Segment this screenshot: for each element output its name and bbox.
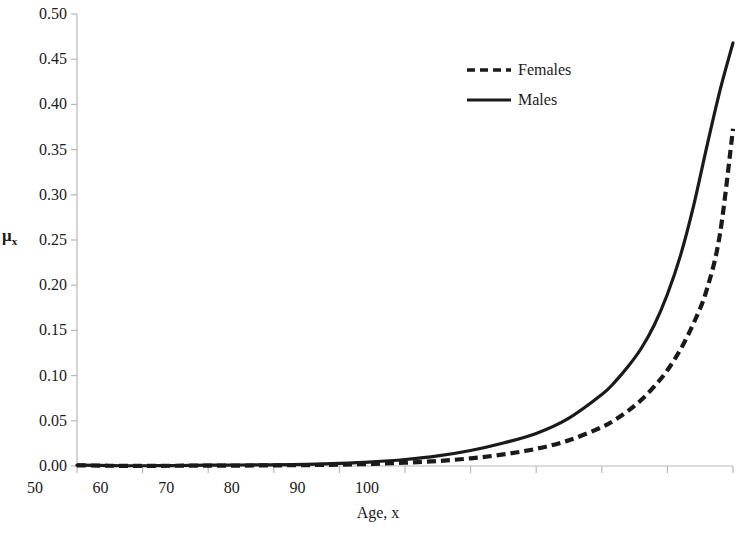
x-tick-label: 50	[27, 480, 43, 496]
x-tick-label: 60	[93, 480, 109, 496]
y-tick-label: 0.10	[39, 368, 67, 384]
y-tick-label: 0.15	[39, 322, 67, 338]
x-axis-title: Age, x	[0, 504, 756, 522]
dashed-line-icon	[466, 64, 512, 76]
legend-label-females: Females	[518, 61, 571, 79]
legend-label-males: Males	[518, 91, 557, 109]
x-tick-label: 100	[355, 480, 379, 496]
plot-area	[0, 0, 756, 536]
y-tick-label: 0.05	[39, 413, 67, 429]
chart-legend: Females Males	[466, 62, 571, 108]
legend-item-females: Females	[466, 62, 571, 78]
y-axis-title: μx	[2, 226, 17, 247]
y-tick-label: 0.45	[39, 51, 67, 67]
y-axis-title-sub: x	[12, 235, 18, 247]
y-tick-label: 0.50	[39, 6, 67, 22]
chart-figure: μx Age, x Females Males 0.000.050.100.15…	[0, 0, 756, 536]
y-tick-label: 0.25	[39, 232, 67, 248]
series-line-males	[77, 43, 733, 466]
y-tick-label: 0.30	[39, 187, 67, 203]
y-tick-label: 0.35	[39, 142, 67, 158]
x-tick-label: 90	[289, 480, 305, 496]
solid-line-icon	[466, 94, 512, 106]
y-tick-label: 0.00	[39, 458, 67, 474]
series-line-females	[77, 129, 733, 466]
y-axis-title-base: μ	[2, 226, 12, 245]
x-tick-label: 70	[158, 480, 174, 496]
y-tick-label: 0.40	[39, 96, 67, 112]
y-tick-label: 0.20	[39, 277, 67, 293]
x-tick-label: 80	[224, 480, 240, 496]
legend-item-males: Males	[466, 92, 571, 108]
